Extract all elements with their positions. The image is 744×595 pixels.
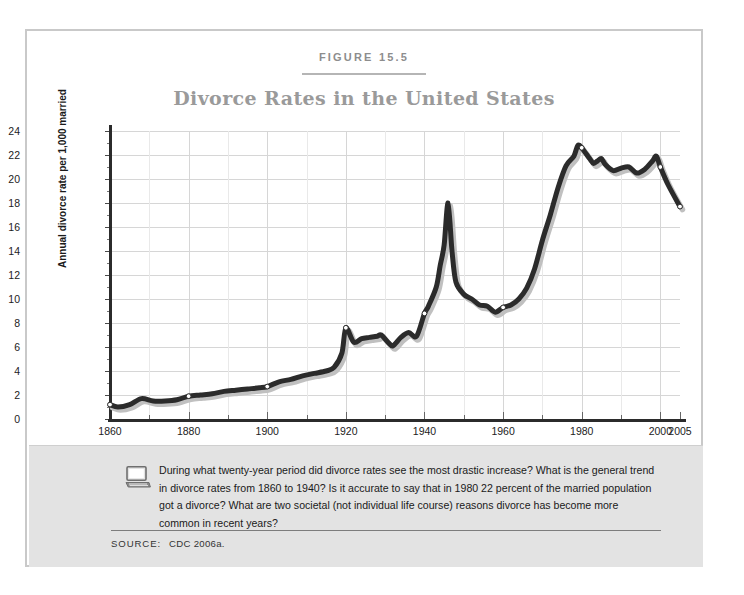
x-tick-label: 1960 (491, 425, 514, 437)
y-tick-label: 12 (0, 269, 20, 281)
data-point-marker (265, 384, 270, 389)
source-rule (111, 530, 661, 531)
x-tick-label: 1940 (413, 425, 436, 437)
figure-title: Divorce Rates in the United States (27, 87, 701, 109)
divorce-rate-line-series (110, 131, 680, 419)
y-tick-label: 24 (0, 125, 20, 137)
data-point-marker (579, 145, 584, 150)
series-drop-shadow (113, 148, 683, 410)
plot-region: 0246810121416182022241860188019001920194… (110, 131, 680, 419)
y-tick-label: 18 (0, 197, 20, 209)
y-tick-label: 0 (0, 413, 20, 425)
y-tick-label: 20 (0, 173, 20, 185)
caption-panel: During what twenty-year period did divor… (29, 445, 703, 567)
figure-label: FIGURE 15.5 (27, 51, 701, 63)
y-tick-label: 4 (0, 365, 20, 377)
source-value: CDC 2006a. (169, 538, 225, 549)
x-axis-line (108, 419, 686, 422)
figure-rule (302, 73, 426, 75)
series-line (110, 145, 680, 407)
computer-monitor-icon (125, 466, 151, 488)
y-tick-label: 14 (0, 245, 20, 257)
data-point-marker (186, 394, 191, 399)
y-axis-label: Annual divorce rate per 1,000 married (57, 28, 68, 268)
y-tick-label: 6 (0, 341, 20, 353)
source-key: SOURCE: (111, 538, 161, 549)
x-tick-label: 1860 (98, 425, 121, 437)
x-tick-label: 2005 (668, 425, 691, 437)
y-tick-label: 8 (0, 317, 20, 329)
y-tick-label: 2 (0, 389, 20, 401)
x-tick-label: 1980 (570, 425, 593, 437)
data-point-marker (343, 325, 348, 330)
source-line: SOURCE: CDC 2006a. (111, 538, 225, 549)
x-tick-label: 1900 (256, 425, 279, 437)
data-point-marker (501, 305, 506, 310)
data-point-marker (678, 204, 683, 209)
data-point-marker (108, 402, 113, 407)
x-tick-mark (680, 412, 681, 419)
data-point-marker (422, 311, 427, 316)
y-tick-label: 10 (0, 293, 20, 305)
figure-card: FIGURE 15.5 Divorce Rates in the United … (25, 29, 703, 567)
chart-area: Annual divorce rate per 1,000 married 02… (27, 123, 705, 433)
x-tick-label: 1880 (177, 425, 200, 437)
y-tick-label: 16 (0, 221, 20, 233)
y-tick-label: 22 (0, 149, 20, 161)
question-text: During what twenty-year period did divor… (159, 462, 661, 532)
data-point-marker (658, 165, 663, 170)
x-tick-label: 1920 (334, 425, 357, 437)
